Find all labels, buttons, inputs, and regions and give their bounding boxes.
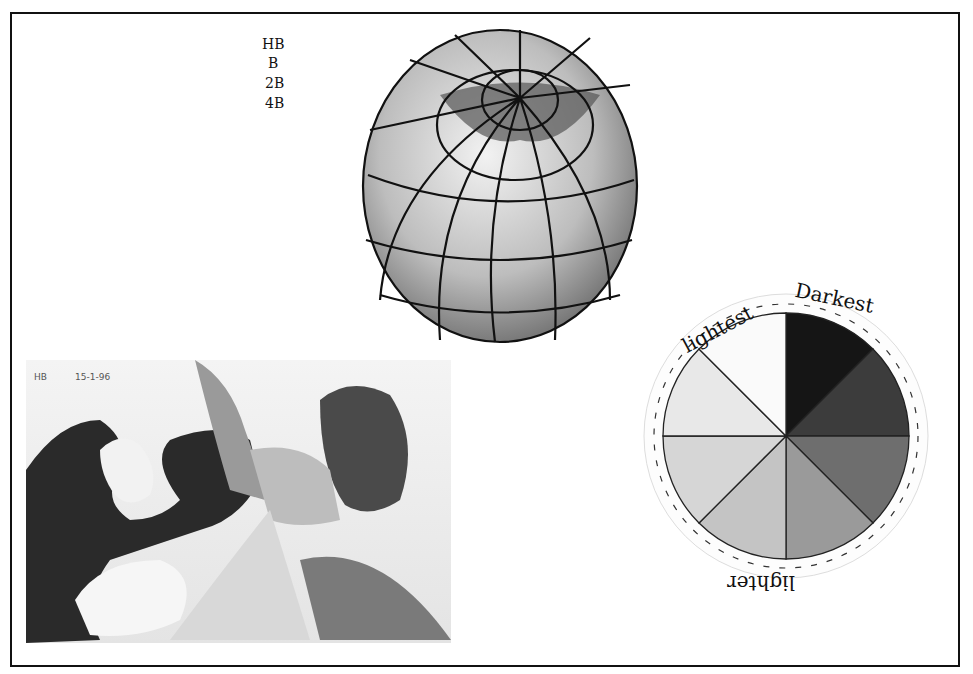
tonal-study-drawing: HB 15-1-96 xyxy=(26,360,451,643)
tone-wheel: lightest Darkest lighter xyxy=(644,278,928,595)
study-date: 15-1-96 xyxy=(75,372,110,382)
drawing-canvas: HB B 2B 4B HB 15-1-96 xyxy=(0,0,973,674)
grade-4b: 4B xyxy=(265,95,284,111)
pencil-grade-list: HB B 2B 4B xyxy=(262,36,285,111)
study-grade-label: HB xyxy=(34,372,47,382)
shaded-sphere xyxy=(363,30,637,342)
label-lighter: lighter xyxy=(727,571,795,595)
grade-b: B xyxy=(268,55,278,71)
grade-hb: HB xyxy=(262,36,285,52)
grade-2b: 2B xyxy=(265,75,284,91)
